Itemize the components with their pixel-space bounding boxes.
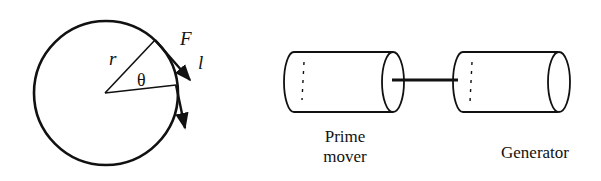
generator-cylinder: [453, 52, 570, 112]
wheel-diagram: [34, 21, 190, 165]
label-r: r: [109, 48, 116, 70]
label-theta: θ: [137, 70, 146, 91]
caption-generator: Generator: [480, 143, 590, 163]
label-l: l: [198, 52, 203, 74]
prime-mover-cylinder: [284, 52, 404, 112]
caption-prime-line1: Prime: [305, 127, 385, 147]
caption-prime-mover: Prime mover: [305, 127, 385, 167]
label-f: F: [180, 28, 192, 50]
caption-prime-line2: mover: [305, 147, 385, 167]
